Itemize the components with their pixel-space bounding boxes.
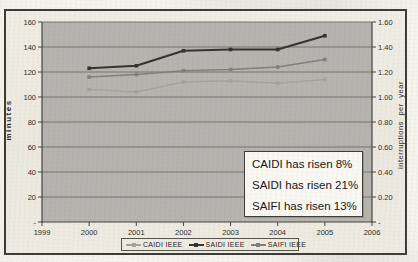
- annotation-line-saifi: SAIFI has risen 13%: [252, 196, 362, 217]
- annotation-line-caidi: CAIDI has risen 8%: [252, 154, 362, 175]
- left-axis-title: minutes: [4, 85, 14, 155]
- annotation-line-saidi: SAIDI has risen 21%: [252, 175, 362, 196]
- right-axis-title: interruptions per year: [396, 65, 406, 185]
- legend-item-saifi: SAIFI IEEE: [251, 241, 306, 248]
- legend-item-saidi: SAIDI IEEE: [189, 241, 245, 248]
- legend-line-sample-saifi: [251, 244, 266, 246]
- legend-label-saidi: SAIDI IEEE: [206, 241, 245, 248]
- annotation-box: CAIDI has risen 8% SAIDI has risen 21% S…: [244, 151, 363, 217]
- legend-line-sample-caidi: [126, 244, 141, 246]
- chart-legend: CAIDI IEEE SAIDI IEEE SAIFI IEEE: [121, 238, 299, 251]
- legend-line-sample-saidi: [189, 244, 204, 246]
- scanned-chart-page: --200.20400.40600.60800.801001.001201.20…: [0, 0, 418, 262]
- legend-label-saifi: SAIFI IEEE: [268, 241, 306, 248]
- chart-frame: [4, 9, 407, 255]
- legend-label-caidi: CAIDI IEEE: [143, 241, 183, 248]
- legend-item-caidi: CAIDI IEEE: [126, 241, 183, 248]
